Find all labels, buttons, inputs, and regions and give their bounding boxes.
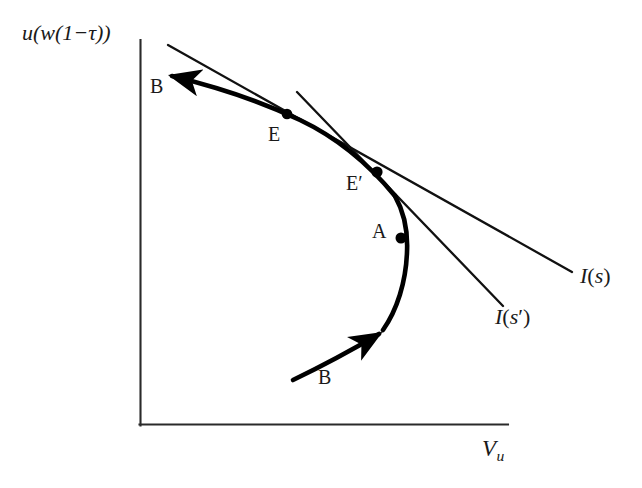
point-a-dot xyxy=(396,233,407,244)
budget-line-i-s xyxy=(168,45,572,272)
point-e-prime-dot xyxy=(371,166,382,177)
point-label-e-prime: E′ xyxy=(346,173,363,193)
line-label-i-s-arg: s xyxy=(595,263,604,288)
curve-label-b-lower-text: B xyxy=(318,366,331,388)
line-label-i-s-prime: I(s′) xyxy=(495,306,530,328)
curve-b-lower-branch xyxy=(293,334,379,380)
y-axis-label: u(w(1−τ)) xyxy=(22,22,111,44)
x-axis-label: Vu xyxy=(482,437,504,463)
x-axis-label-letter: V xyxy=(482,436,496,461)
x-axis-label-subscript: u xyxy=(497,447,505,464)
point-e-dot xyxy=(282,109,293,120)
point-label-a: A xyxy=(372,221,386,241)
figure-canvas: u(w(1−τ)) Vu B B E E′ A I(s) I(s′) xyxy=(0,0,642,488)
curve-label-b-upper-text: B xyxy=(150,75,163,97)
line-label-i-s-prime-arg: s xyxy=(510,304,519,329)
point-label-a-text: A xyxy=(372,220,386,242)
curve-label-b-upper: B xyxy=(150,76,163,96)
line-label-i-s: I(s) xyxy=(580,265,611,287)
diagram-vector-layer xyxy=(0,0,642,488)
point-label-e-prime-mark: ′ xyxy=(358,172,362,194)
y-axis-label-text: u(w(1−τ)) xyxy=(22,20,111,45)
point-label-e-prime-text: E xyxy=(346,172,358,194)
curve-b-bend-segment xyxy=(383,196,407,330)
point-label-e: E xyxy=(268,124,280,144)
curve-label-b-lower: B xyxy=(318,367,331,387)
point-label-e-text: E xyxy=(268,123,280,145)
budget-line-i-s-prime xyxy=(297,92,503,306)
